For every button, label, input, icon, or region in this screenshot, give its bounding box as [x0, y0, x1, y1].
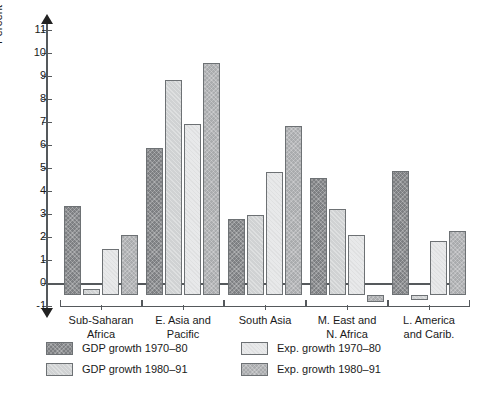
legend-label: GDP growth 1980–91 [82, 362, 188, 377]
y-axis-tick-label: -1 [20, 300, 46, 311]
y-axis-tick-label: 8 [20, 93, 46, 104]
bar [83, 289, 100, 295]
y-axis-tick-label: 6 [20, 139, 46, 150]
y-axis-tick-label: 2 [20, 231, 46, 242]
legend-label: GDP growth 1970–80 [82, 341, 188, 356]
bar [266, 172, 283, 295]
bar [310, 178, 327, 295]
bar [165, 80, 182, 295]
category-group: E. Asia and Pacific [142, 300, 224, 341]
y-axis-tick-label: 9 [20, 70, 46, 81]
category-bracket [60, 300, 142, 307]
bar [146, 148, 163, 295]
y-axis-tick-label: 11 [20, 24, 46, 35]
y-axis-tick-label: 0 [20, 277, 46, 288]
category-bracket [142, 300, 224, 307]
legend-swatch [46, 342, 73, 355]
y-axis-tick-label: 1 [20, 254, 46, 265]
category-group: South Asia [224, 300, 306, 328]
category-label: South Asia [224, 314, 306, 328]
legend-swatch [241, 342, 268, 355]
y-axis-tick-label: 10 [20, 47, 46, 58]
category-bracket [306, 300, 388, 307]
category-label: Sub-Saharan Africa [60, 314, 142, 341]
bar [285, 126, 302, 295]
category-label: L. America and Carib. [388, 314, 470, 341]
category-bracket [388, 300, 470, 307]
y-axis-tick-label: 5 [20, 162, 46, 173]
bar-chart: Percent -101234567891011 Sub-Saharan Afr… [0, 0, 496, 394]
bar [348, 235, 365, 295]
bar [392, 171, 409, 295]
category-group: Sub-Saharan Africa [60, 300, 142, 341]
category-label: M. East and N. Africa [306, 314, 388, 341]
y-axis-tick-label: 3 [20, 208, 46, 219]
category-label: E. Asia and Pacific [142, 314, 224, 341]
bar [64, 206, 81, 295]
category-bracket [224, 300, 306, 307]
bar [411, 295, 428, 300]
category-group: L. America and Carib. [388, 300, 470, 341]
bar [449, 231, 466, 295]
bar [430, 241, 447, 295]
legend-label: Exp. growth 1980–91 [277, 362, 381, 377]
legend-label: Exp. growth 1970–80 [277, 341, 381, 356]
bar [228, 219, 245, 295]
y-axis-tick-label: 4 [20, 185, 46, 196]
legend-swatch [46, 363, 73, 376]
bar [247, 215, 264, 296]
bar [121, 235, 138, 295]
plot-area [46, 20, 466, 295]
bar [329, 209, 346, 295]
bar [184, 124, 201, 295]
y-axis-tick-label: 7 [20, 116, 46, 127]
category-group: M. East and N. Africa [306, 300, 388, 341]
bar [102, 249, 119, 295]
bar [203, 63, 220, 295]
legend-swatch [241, 363, 268, 376]
